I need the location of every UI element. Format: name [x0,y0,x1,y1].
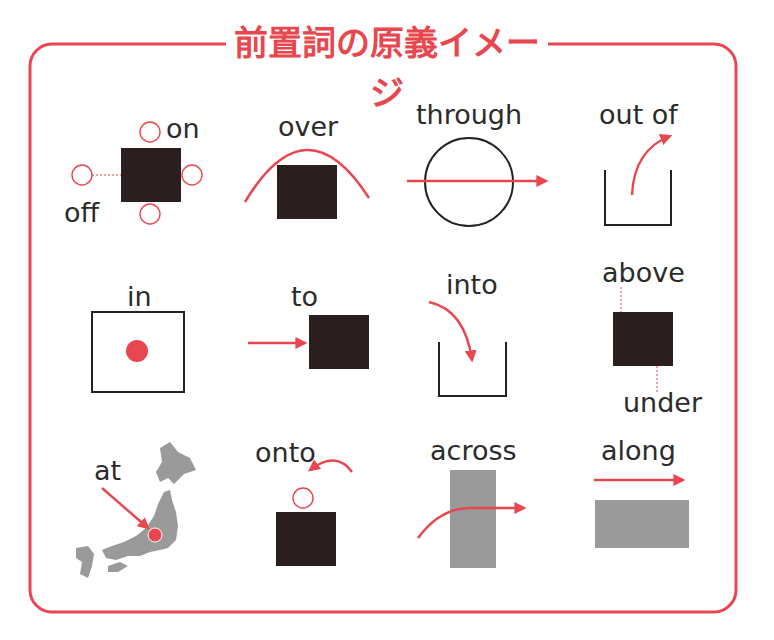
gray-bar-horizontal [595,500,689,548]
dark-square [121,148,181,202]
out-of-arrow [632,136,670,195]
label-onto: onto [255,438,316,468]
dark-square [276,512,336,566]
in-figure [92,312,184,392]
along-figure [594,480,689,548]
preposition-diagram: 前置詞の原義イメージ on off over through out of in… [0,0,774,640]
label-at: at [94,456,121,486]
label-to: to [291,282,318,312]
on-circle-bottom [140,204,160,224]
across-figure [418,470,524,568]
label-on: on [166,114,200,144]
diagram-title: 前置詞の原義イメージ [226,18,548,68]
container [605,170,671,225]
label-out-of: out of [599,100,678,130]
label-off: off [64,198,99,228]
on-circle-top [140,122,160,142]
label-under: under [623,388,702,418]
in-dot [126,340,148,362]
into-arrow [429,302,472,360]
dark-square [277,165,337,219]
gray-bar-vertical [450,470,496,568]
label-through: through [416,100,522,130]
above-under-figure [613,287,673,393]
onto-arrow [310,460,352,472]
at-dot [148,528,162,542]
onto-circle [293,488,313,508]
container [439,342,506,396]
through-figure [407,138,546,226]
off-circle-left [72,165,92,185]
into-figure [429,302,506,396]
at-arrow [102,488,148,528]
label-over: over [278,112,338,142]
label-across: across [430,436,517,466]
label-along: along [601,436,676,466]
label-above: above [602,258,685,288]
onto-figure [276,460,352,566]
over-figure [245,150,369,219]
to-figure [248,315,369,369]
label-in: in [127,282,152,312]
dark-square [613,312,673,366]
dark-square [309,315,369,369]
out-of-figure [605,136,671,225]
on-circle-right [182,165,202,185]
label-into: into [446,270,498,300]
